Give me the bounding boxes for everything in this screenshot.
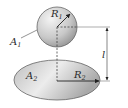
a1-leader-line — [21, 30, 37, 38]
dimension-arrowhead-top-icon — [106, 28, 109, 32]
dimension-arrowhead-bottom-icon — [106, 77, 109, 81]
sphere-disk-diagram: R1 A1 A2 R2 l — [0, 0, 128, 108]
diagram-canvas: R1 A1 A2 R2 l — [0, 0, 128, 108]
distance-label: l — [102, 49, 105, 60]
a1-label: A1 — [9, 36, 21, 49]
